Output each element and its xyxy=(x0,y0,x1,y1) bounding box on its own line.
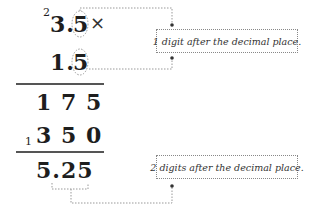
partial-product-1: 1 7 5 xyxy=(36,91,102,113)
multiplicand-decimal: 5 xyxy=(73,13,89,35)
top-connector-dot xyxy=(170,23,174,27)
result: 5.25 xyxy=(36,159,94,181)
multiplicand-integer: 3. xyxy=(50,13,75,35)
result-bracket xyxy=(52,183,88,189)
bottom-annotation-box: 2 digits after the decimal place. xyxy=(156,155,298,179)
middle-connector-dot xyxy=(170,56,174,60)
lower-rule xyxy=(16,151,104,153)
partial-product-2: 3 5 0 xyxy=(36,124,102,146)
top-annotation-box: 1 digit after the decimal place. xyxy=(156,29,298,53)
bottom-connector-dot xyxy=(170,184,174,188)
bottom-annotation-text: 2 digits after the decimal place. xyxy=(150,162,303,173)
multiply-operator: × xyxy=(90,12,105,33)
middle-connector-line xyxy=(89,58,172,69)
carry-bottom: 1 xyxy=(25,135,32,148)
top-annotation-text: 1 digit after the decimal place. xyxy=(153,36,301,47)
upper-rule xyxy=(16,83,104,85)
multiplier-integer: 1. xyxy=(50,51,75,73)
multiplier-decimal: 5 xyxy=(73,51,89,73)
carry-top: 2 xyxy=(43,6,50,19)
